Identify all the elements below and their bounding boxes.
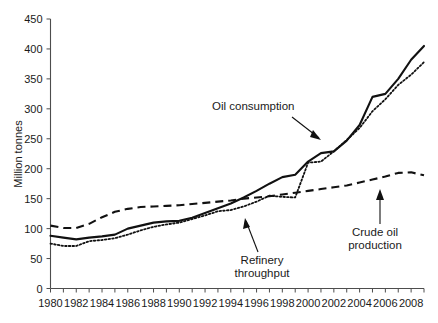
chart-background [0,0,438,323]
y-axis-tick-label: 450 [24,13,42,25]
x-axis-tick-label: 1982 [64,297,88,309]
y-axis-tick-label: 0 [36,283,42,295]
x-axis-tick-label: 1986 [116,297,140,309]
annotation-label-oil-consumption: Oil consumption [212,100,294,112]
y-axis-tick-label: 350 [24,73,42,85]
x-axis-tick-label: 2004 [347,297,371,309]
y-axis-tick-label: 50 [30,253,42,265]
x-axis-tick-label: 1990 [167,297,191,309]
x-axis-tick-label: 1992 [193,297,217,309]
x-axis-tick-label: 1984 [90,297,114,309]
annotation-label-crude-line1: Crude oil [352,226,398,238]
y-axis-title: Million tonnes [12,120,24,188]
y-axis-tick-label: 200 [24,163,42,175]
annotation-label-refinery-line1: Refinery [241,254,284,266]
chart-container: 050100150200250300350400450 198019821984… [0,0,438,323]
x-axis-tick-label: 2008 [399,297,423,309]
y-axis-tick-label: 400 [24,43,42,55]
y-axis-tick-label: 100 [24,223,42,235]
y-axis-tick-label: 300 [24,103,42,115]
x-axis-tick-label: 1994 [219,297,243,309]
annotation-label-crude-line2: production [348,239,402,251]
y-axis-tick-label: 150 [24,193,42,205]
x-axis-tick-label: 2006 [373,297,397,309]
x-axis-tick-label: 1998 [270,297,294,309]
y-axis-tick-label: 250 [24,133,42,145]
x-axis-tick-label: 2002 [322,297,346,309]
x-axis-tick-label: 1996 [244,297,268,309]
x-axis-tick-label: 1988 [141,297,165,309]
x-axis-tick-labels: 1980198219841986198819901992199419961998… [38,297,423,309]
x-axis-tick-label: 2000 [296,297,320,309]
annotation-label-refinery-line2: throughput [235,267,291,279]
x-axis-tick-label: 1980 [38,297,62,309]
line-chart: 050100150200250300350400450 198019821984… [0,0,438,323]
